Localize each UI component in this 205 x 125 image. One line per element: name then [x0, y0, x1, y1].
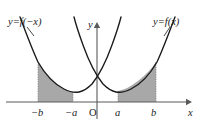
origin-label: O	[89, 108, 97, 119]
x-axis-arrowhead	[186, 99, 192, 105]
left-shaded-area	[38, 62, 73, 102]
curve-label-f-of-x: y=f(x)	[153, 17, 179, 28]
tick-label-b: b	[151, 108, 156, 119]
curve-left-parabola	[20, 17, 121, 92]
left-label-leader	[27, 27, 34, 36]
right-shaded-area	[118, 62, 156, 102]
x-axis-label: x	[188, 108, 193, 119]
tick-label-a: a	[115, 108, 120, 119]
curve-label-f-of-negative-x: y=f(−x)	[8, 17, 41, 28]
math-figure-parabolas: y=f(−x) y=f(x) y x −b −a O a b	[0, 0, 205, 125]
y-axis-arrowhead	[94, 22, 100, 28]
tick-label-negative-a: −a	[65, 108, 77, 119]
tick-label-negative-b: −b	[31, 108, 43, 119]
y-axis-label: y	[88, 20, 93, 31]
